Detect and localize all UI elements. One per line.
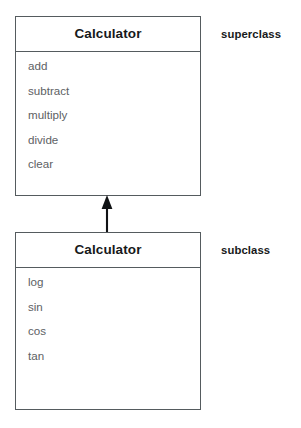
list-item: tan	[28, 350, 200, 362]
diagram-canvas: Calculator add subtract multiply divide …	[0, 0, 301, 428]
class-title-subclass: Calculator	[74, 243, 141, 257]
list-item: multiply	[28, 109, 200, 121]
member-list-superclass: add subtract multiply divide clear	[16, 52, 200, 170]
side-label-superclass: superclass	[221, 29, 281, 40]
list-item: divide	[28, 134, 200, 146]
list-item: log	[28, 276, 200, 288]
class-title-superclass: Calculator	[74, 27, 141, 41]
list-item: clear	[28, 158, 200, 170]
member-list-subclass: log sin cos tan	[16, 268, 200, 361]
class-box-superclass[interactable]: Calculator add subtract multiply divide …	[15, 16, 201, 196]
list-item: sin	[28, 301, 200, 313]
list-item: add	[28, 60, 200, 72]
class-header-subclass: Calculator	[16, 233, 200, 268]
side-label-subclass: subclass	[221, 245, 270, 256]
list-item: subtract	[28, 85, 200, 97]
class-box-subclass[interactable]: Calculator log sin cos tan	[15, 232, 201, 410]
inheritance-arrow-up-icon	[95, 194, 119, 234]
list-item: cos	[28, 325, 200, 337]
class-header-superclass: Calculator	[16, 17, 200, 52]
